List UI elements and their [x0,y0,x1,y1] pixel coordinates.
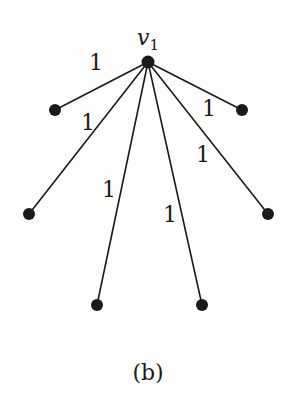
edges [29,62,268,305]
edge-weight-label: 1 [89,50,103,75]
edge [148,62,202,305]
leaf-node [23,208,35,220]
edge-weight-label: 1 [81,110,95,135]
figure-caption: (b) [132,360,163,385]
leaf-node [262,208,274,220]
nodes [23,56,274,312]
center-node-label: v1 [137,25,159,54]
edge [29,62,148,214]
edge [148,62,268,214]
center-node [142,56,155,69]
leaf-node [91,299,103,311]
leaf-node [196,299,208,311]
edge-weight-label: 1 [202,96,216,121]
edge-weights: 111111 [81,50,216,227]
edge [148,62,242,110]
star-graph: 111111 v1 (b) [0,0,294,407]
edge-weight-label: 1 [196,142,210,167]
leaf-node [49,104,61,116]
edge-weight-label: 1 [102,177,116,202]
edge-weight-label: 1 [163,202,177,227]
leaf-node [236,104,248,116]
